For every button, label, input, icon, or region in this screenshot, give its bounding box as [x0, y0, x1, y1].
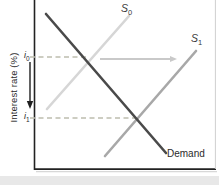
y-axis-label: Interest rate (%): [8, 33, 19, 143]
y-tick-label-i0: i0: [24, 50, 30, 62]
bottom-decoration-band: [0, 176, 219, 185]
demand-curve: [46, 14, 166, 153]
y-tick-label-i1-subscript: 1: [26, 116, 30, 123]
curve-label-s1-text: S: [191, 32, 198, 44]
curve-label-demand: Demand: [167, 148, 205, 159]
curve-label-s0-subscript: 0: [128, 8, 132, 17]
supply-shift-arrow: [100, 56, 177, 62]
supply-demand-diagram: Interest rate (%) S0 S1 Demand i0 i1: [0, 0, 219, 185]
supply-curve-s1: [105, 51, 196, 156]
y-tick-label-i0-subscript: 0: [26, 55, 30, 62]
curve-label-s1-subscript: 1: [198, 38, 202, 47]
curve-label-s0-text: S: [121, 2, 128, 14]
curve-label-s1: S1: [191, 32, 202, 47]
y-tick-label-i1: i1: [24, 111, 30, 123]
curve-label-s0: S0: [121, 2, 132, 17]
rate-decrease-arrow: [27, 62, 33, 109]
